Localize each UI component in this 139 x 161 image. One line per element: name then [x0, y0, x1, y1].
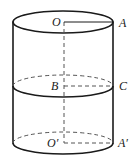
label-b: B: [51, 80, 58, 92]
middle-section-front-arc: [13, 86, 113, 97]
label-a-prime: A′: [118, 137, 128, 149]
middle-section-back-arc: [13, 75, 113, 86]
bottom-face-back-arc: [13, 132, 113, 143]
label-o: O: [52, 16, 61, 28]
bottom-face-front-arc: [13, 143, 113, 154]
label-o-prime: O′: [47, 137, 58, 149]
label-a: A: [119, 17, 126, 29]
cylinder-figure: O A B C O′ A′: [0, 0, 139, 161]
label-c: C: [119, 80, 127, 92]
